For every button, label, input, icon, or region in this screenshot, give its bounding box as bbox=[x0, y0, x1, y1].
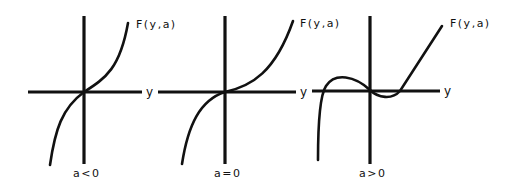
y-axis-label: y bbox=[300, 85, 307, 99]
bifurcation-figure: F(y,a) y a<0 F(y,a) y a=0 F(y,a) y a>0 bbox=[0, 0, 514, 185]
condition-label: a=0 bbox=[214, 167, 241, 180]
function-label: F(y,a) bbox=[136, 18, 177, 31]
function-curve bbox=[318, 26, 442, 160]
panel-a-zero: F(y,a) y a=0 bbox=[158, 16, 341, 180]
y-axis-label: y bbox=[146, 85, 153, 99]
function-label: F(y,a) bbox=[450, 17, 491, 30]
condition-label: a<0 bbox=[73, 167, 100, 180]
panel-a-negative: F(y,a) y a<0 bbox=[28, 16, 177, 180]
function-label: F(y,a) bbox=[300, 17, 341, 30]
function-curve bbox=[50, 23, 128, 165]
condition-label: a>0 bbox=[359, 167, 386, 180]
y-axis-label: y bbox=[444, 84, 451, 98]
panel-a-positive: F(y,a) y a>0 bbox=[312, 16, 491, 180]
